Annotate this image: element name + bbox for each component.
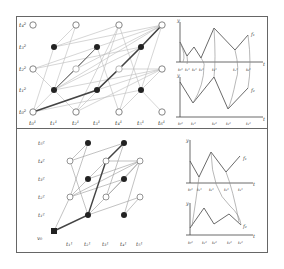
top-col-label: t₂¹: [72, 119, 79, 126]
tick-label: t₄¹: [212, 67, 217, 72]
axis-label-y: y: [176, 17, 180, 24]
curve-label-f1: f₁: [242, 155, 247, 162]
tick-label: t₂²: [212, 121, 217, 126]
tick-label: t₁²: [202, 240, 207, 245]
curve-label-f1: f₁: [250, 31, 255, 38]
tick-label: t₅¹: [233, 67, 238, 72]
tick-label: t₄²: [246, 121, 251, 126]
axis-label-t: t: [263, 116, 266, 122]
top-col-label: t₀¹: [29, 119, 36, 126]
tick-label: t₄¹: [238, 187, 243, 192]
bottom-plot-f2: [186, 203, 253, 235]
top-col-label: t₃¹: [93, 119, 100, 126]
top-col-label: t₆¹: [158, 119, 165, 126]
bottom-row-label: t₂²: [38, 194, 45, 200]
top-row-label: t₄²: [19, 21, 27, 28]
axis-label-t: t: [253, 233, 256, 239]
tick-label: t₀¹: [178, 67, 183, 72]
bottom-col-label: t₁¹: [66, 241, 73, 247]
top-row-label: t₁²: [19, 86, 27, 93]
tick-label: t₃²: [226, 121, 231, 126]
bottom-col-label: t₃¹: [102, 241, 109, 247]
tick-label: t₁¹: [197, 187, 202, 192]
tick-label: t₃¹: [224, 187, 229, 192]
bottom-col-label: t₄¹: [120, 241, 127, 247]
tick-label: t₀²: [178, 121, 183, 126]
bottom-col-label: t₅¹: [136, 241, 143, 247]
axis-label-y: y: [176, 72, 180, 79]
tick-label: t₃²: [227, 240, 232, 245]
tick-label: t₀²: [188, 240, 193, 245]
curve-label-f2: f₂: [242, 223, 247, 230]
bottom-row-label: t₃²: [38, 176, 45, 182]
bottom-row-label: t₄²: [38, 158, 45, 164]
bottom-row-label: t₅²: [38, 140, 45, 146]
figure: t₄² t₃² t₂² t₁² t₀² t₀¹ t₁¹ t₂¹ t₃¹ t₄¹ …: [0, 0, 284, 269]
top-col-label: t₁¹: [50, 119, 57, 126]
tick-label: t₆¹: [246, 67, 251, 72]
top-plot-f2: [176, 77, 263, 117]
tick-label: t₄²: [238, 240, 243, 245]
top-panel-frame: [17, 17, 268, 129]
bottom-col-label: t₂¹: [84, 241, 91, 247]
tick-label: t₀¹: [188, 187, 193, 192]
tick-label: t₁²: [191, 121, 196, 126]
tick-label: t₁¹: [185, 67, 190, 72]
top-row-label: t₂²: [19, 65, 27, 72]
bottom-row-label: t₁²: [38, 212, 45, 218]
tick-label: t₂²: [212, 240, 217, 245]
bottom-plot-f1: [186, 140, 253, 183]
tick-label: t₂¹: [192, 67, 197, 72]
top-col-label: t₄¹: [115, 119, 122, 126]
curve-label-f2: f₂: [250, 87, 255, 94]
top-col-label: t₅¹: [137, 119, 144, 126]
origin-node: [51, 228, 57, 234]
tick-label: t₂¹: [209, 187, 214, 192]
axis-label-t: t: [253, 181, 256, 187]
top-row-label: t₃²: [19, 43, 27, 50]
axis-label-t: t: [263, 61, 266, 67]
axis-label-y: y: [185, 137, 189, 144]
top-row-label: t₀²: [19, 108, 27, 115]
origin-label: v₀: [37, 235, 43, 241]
top-grid-edges: [33, 25, 162, 112]
tick-label: t₃¹: [199, 67, 204, 72]
axis-label-y: y: [185, 200, 189, 207]
